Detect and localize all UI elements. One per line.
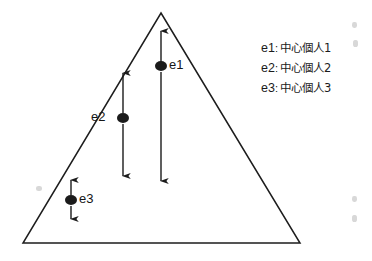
figure-canvas: e1 e2 e3 e1 : 中心個人1 e2 : 中心個人2 e3 : 中心個人… — [0, 0, 372, 261]
node-dot-e2 — [117, 113, 129, 123]
node-dot-e3 — [65, 195, 77, 205]
node-label-e3: e3 — [79, 191, 93, 206]
legend: e1 : 中心個人1 e2 : 中心個人2 e3 : 中心個人3 — [261, 38, 369, 98]
legend-key-e1: e1 — [261, 38, 275, 58]
legend-item-e2: e2 : 中心個人2 — [261, 58, 369, 78]
node-label-e2: e2 — [91, 109, 105, 124]
node-label-e1: e1 — [169, 57, 183, 72]
legend-text-e1: 中心個人1 — [280, 38, 331, 58]
dots-layer — [65, 61, 167, 205]
legend-key-e3: e3 — [261, 78, 275, 98]
legend-text-e2: 中心個人2 — [280, 58, 331, 78]
legend-key-e2: e2 — [261, 58, 275, 78]
legend-item-e1: e1 : 中心個人1 — [261, 38, 369, 58]
node-dot-e1 — [155, 61, 167, 71]
legend-item-e3: e3 : 中心個人3 — [261, 78, 369, 98]
legend-text-e3: 中心個人3 — [280, 78, 331, 98]
